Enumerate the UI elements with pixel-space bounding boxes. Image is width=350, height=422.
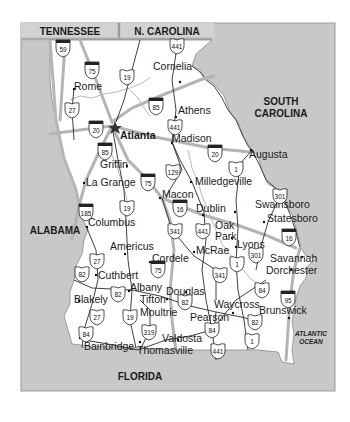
us-route-shield-icon: 319	[142, 325, 156, 340]
city-label: Milledgeville	[195, 175, 252, 187]
us-route-shield-icon: 27	[65, 103, 79, 118]
us-route-number: 301	[251, 252, 262, 259]
us-route-number: 27	[93, 314, 101, 321]
interstate-number: 20	[211, 151, 219, 158]
city-label: Athens	[178, 104, 211, 116]
us-route-number: 319	[144, 329, 155, 336]
us-route-shield-icon: 441	[170, 39, 184, 54]
us-route-shield-icon: 82	[75, 267, 89, 282]
interstate-number: 16	[176, 206, 184, 213]
interstate-number: 85	[101, 149, 109, 156]
city-label: La Grange	[86, 176, 136, 188]
us-route-shield-icon: 84	[79, 327, 93, 342]
us-route-number: 82	[78, 271, 86, 278]
us-route-shield-icon: 441	[168, 120, 182, 135]
city-label: McRae	[196, 244, 229, 256]
city-label: Bainbridge	[84, 340, 134, 352]
city-label: Thomasville	[137, 344, 193, 356]
us-route-number: 27	[68, 107, 76, 114]
city-label: Cornelia	[153, 60, 192, 72]
us-route-shield-icon: 27	[90, 254, 104, 269]
us-route-shield-icon: 1	[245, 334, 259, 349]
city-label: Albany	[130, 281, 163, 293]
city-label: Moultrie	[140, 306, 178, 318]
interstate-shield-icon: 20	[208, 145, 222, 162]
us-route-shield-icon: 301	[249, 248, 263, 263]
interstate-number: 20	[92, 127, 100, 134]
city-label: Valdosta	[162, 332, 202, 344]
us-route-number: 84	[82, 331, 90, 338]
interstate-shield-icon: 185	[79, 204, 93, 221]
city-label: Pearson	[190, 311, 229, 323]
city-label: Park	[215, 230, 237, 242]
us-route-shield-icon: 341	[168, 224, 182, 239]
interstate-shield-icon: 75	[141, 174, 155, 191]
us-route-number: 84	[258, 287, 266, 294]
us-route-number: 19	[123, 205, 131, 212]
interstate-shield-icon: 85	[149, 98, 163, 115]
label-atlantic: ATLANTIC	[294, 330, 327, 337]
us-route-number: 129	[168, 169, 179, 176]
interstate-number: 75	[154, 267, 162, 274]
label-south-carolina-2: CAROLINA	[255, 108, 308, 119]
label-alabama: ALABAMA	[30, 225, 81, 236]
city-label: Dublin	[196, 202, 226, 214]
city-label: Tifton	[140, 293, 166, 305]
interstate-shield-icon: 16	[173, 200, 187, 217]
interstate-shield-icon: 85	[98, 143, 112, 160]
city-label: Savannah	[270, 252, 317, 264]
us-route-shield-icon: 129	[166, 165, 180, 180]
city-label: Statesboro	[267, 212, 318, 224]
us-route-number: 441	[172, 43, 183, 50]
us-route-number: 84	[208, 327, 216, 334]
label-capital-atlanta: Atlanta	[120, 129, 156, 141]
interstate-number: 59	[59, 46, 67, 53]
interstate-shield-icon: 59	[56, 40, 70, 57]
city-label: Rome	[74, 80, 102, 92]
us-route-number: 19	[123, 74, 131, 81]
label-south-carolina-1: SOUTH	[264, 96, 299, 107]
us-route-shield-icon: 441	[196, 224, 210, 239]
us-route-number: 1	[235, 261, 239, 268]
us-route-shield-icon: 1	[229, 162, 243, 177]
label-ocean: OCEAN	[299, 338, 323, 345]
interstate-number: 185	[81, 210, 92, 217]
us-route-shield-icon: 301	[273, 189, 287, 204]
us-route-number: 1	[250, 338, 254, 345]
city-label: Americus	[110, 240, 154, 252]
city-label: Columbus	[88, 216, 135, 228]
interstate-number: 85	[152, 104, 160, 111]
us-route-shield-icon: 82	[111, 287, 125, 302]
interstate-shield-icon: 75	[85, 62, 99, 79]
city-label: Cuthbert	[98, 269, 138, 281]
city-label: Waycross	[214, 298, 260, 310]
interstate-shield-icon: 16	[282, 229, 296, 246]
us-route-shield-icon: 84	[255, 283, 269, 298]
interstate-number: 16	[285, 235, 293, 242]
us-route-shield-icon: 1	[230, 257, 244, 272]
us-route-number: 441	[213, 348, 224, 355]
us-route-number: 19	[126, 314, 134, 321]
us-route-shield-icon: 19	[120, 201, 134, 216]
label-north-carolina: N. CAROLINA	[134, 26, 200, 37]
us-route-number: 82	[181, 299, 189, 306]
city-label: Macon	[162, 188, 194, 200]
interstate-number: 75	[144, 180, 152, 187]
us-route-number: 27	[93, 258, 101, 265]
city-label: Blakely	[74, 293, 109, 305]
us-route-shield-icon: 82	[248, 315, 262, 330]
interstate-shield-icon: 95	[281, 291, 295, 308]
us-route-shield-icon: 19	[120, 70, 134, 85]
label-tennessee: TENNESSEE	[40, 26, 101, 37]
us-route-number: 82	[251, 319, 259, 326]
interstate-shield-icon: 75	[151, 261, 165, 278]
us-route-number: 441	[198, 228, 209, 235]
us-route-shield-icon: 341	[213, 268, 227, 283]
georgia-road-map: TENNESSEE N. CAROLINA SOUTH CAROLINA ALA…	[0, 0, 350, 422]
label-florida: FLORIDA	[118, 371, 162, 382]
us-route-number: 82	[114, 291, 122, 298]
us-route-shield-icon: 19	[123, 310, 137, 325]
us-route-shield-icon: 441	[211, 344, 225, 359]
us-route-number: 341	[170, 228, 181, 235]
interstate-number: 95	[284, 297, 292, 304]
